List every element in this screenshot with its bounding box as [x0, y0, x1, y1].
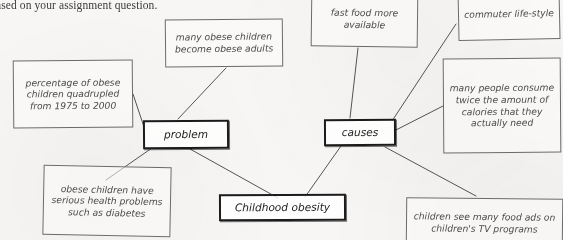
node-fast-food-label: fast food more available: [315, 6, 414, 30]
edge-problem-core: [190, 149, 278, 198]
mind-map-canvas: ased on your assignment question. percen…: [0, 0, 563, 240]
edge-causes-fastfood: [350, 48, 358, 118]
node-stat-label: percentage of obese children quadrupled …: [17, 76, 129, 112]
node-health[interactable]: obese children have serious health probl…: [42, 165, 171, 237]
node-calories[interactable]: many people consume twice the amount of …: [443, 58, 562, 154]
node-calories-label: many people consume twice the amount of …: [447, 82, 557, 129]
node-childhood-obesity-label: Childhood obesity: [224, 201, 341, 213]
node-commuter-lifestyle-label: commuter life-style: [462, 7, 556, 21]
node-problem[interactable]: problem: [143, 120, 229, 150]
node-stat[interactable]: percentage of obese children quadrupled …: [13, 59, 134, 128]
edge-causes-calories: [394, 106, 443, 131]
node-adults[interactable]: many obese children become obese adults: [165, 18, 283, 67]
node-tv-ads[interactable]: children see many food ads on children's…: [406, 197, 563, 240]
edge-causes-ads: [385, 147, 476, 196]
node-problem-label: problem: [148, 128, 224, 140]
node-fast-food[interactable]: fast food more available: [311, 0, 419, 48]
node-commuter-lifestyle[interactable]: commuter life-style: [457, 0, 560, 41]
node-childhood-obesity[interactable]: Childhood obesity: [219, 194, 346, 222]
edge-problem-adults: [178, 68, 226, 119]
node-tv-ads-label: children see many food ads on children's…: [410, 211, 559, 236]
node-health-label: obese children have serious health probl…: [47, 182, 168, 219]
node-adults-label: many obese children become obese adults: [169, 31, 279, 55]
node-causes-label: causes: [329, 127, 391, 139]
node-causes[interactable]: causes: [324, 119, 396, 146]
edge-causes-core: [305, 146, 341, 197]
